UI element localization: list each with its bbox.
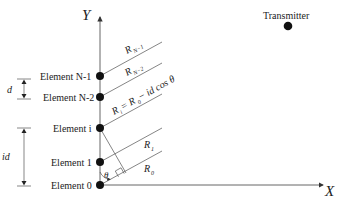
perpendicular-projection [100, 128, 126, 173]
dimension-d [17, 79, 31, 99]
element-0-dot [96, 181, 104, 189]
element-i-dot [96, 124, 104, 132]
svg-text:0: 0 [151, 170, 154, 176]
svg-text:− id cos θ: − id cos θ [136, 73, 177, 102]
dimension-d-label: d [7, 84, 13, 95]
element-label-n1: Element N-1 [40, 71, 91, 82]
element-label-1: Element 1 [51, 157, 92, 168]
transmitter-label: Transmitter [263, 10, 310, 21]
element-label-i: Element i [53, 123, 92, 134]
dimension-id [17, 128, 31, 186]
element-n1-dot [96, 72, 104, 80]
array-geometry-diagram: Y X Transmitter θ R N−1 R N−2 R i = R 0 … [0, 0, 345, 203]
x-axis-label: X [324, 183, 335, 199]
svg-text:1: 1 [151, 146, 154, 152]
angle-theta-label: θ [104, 170, 109, 180]
element-label-n2: Element N-2 [43, 92, 94, 103]
dimension-id-label: id [2, 151, 11, 162]
element-n2-dot [96, 93, 104, 101]
svg-text:R: R [143, 139, 150, 150]
transmitter-dot [284, 22, 293, 31]
svg-text:R: R [143, 163, 150, 174]
svg-text:N−2: N−2 [131, 65, 144, 76]
ray-element-0 [100, 151, 162, 185]
ray-element-1 [100, 128, 162, 162]
ray-lines [100, 42, 162, 185]
label-r-i-equation: R i = R 0 − id cos θ [109, 73, 178, 119]
element-label-0: Element 0 [51, 180, 92, 191]
label-r-n1: R N−1 [122, 37, 145, 58]
label-r1: R 1 [143, 139, 154, 152]
label-r0: R 0 [143, 163, 154, 176]
element-1-dot [96, 158, 104, 166]
y-axis-label: Y [82, 7, 92, 23]
